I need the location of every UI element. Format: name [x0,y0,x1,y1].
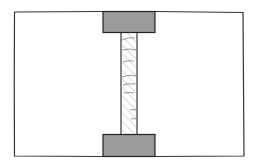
top-grip [103,12,155,33]
diagram-canvas [0,0,257,168]
bottom-grip [103,135,155,157]
specimen-diagram [0,0,257,168]
